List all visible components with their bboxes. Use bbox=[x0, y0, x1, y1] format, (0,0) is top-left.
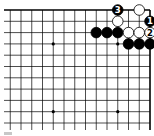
footer-mark bbox=[4, 132, 12, 135]
stone-body bbox=[91, 27, 102, 38]
stone-body bbox=[112, 16, 123, 27]
white-stone bbox=[112, 16, 123, 27]
stone-body bbox=[123, 27, 134, 38]
white-stone bbox=[134, 5, 145, 16]
stone-body bbox=[134, 27, 145, 38]
move-number-label: 3 bbox=[115, 5, 121, 15]
black-stone bbox=[134, 39, 145, 50]
star-point bbox=[116, 42, 119, 45]
move-number-label: 1 bbox=[147, 16, 153, 26]
stone-body bbox=[112, 27, 123, 38]
white-stone bbox=[123, 27, 134, 38]
star-point bbox=[52, 110, 55, 113]
black-stone bbox=[112, 27, 123, 38]
stones: 312 bbox=[91, 5, 154, 50]
black-stone: 3 bbox=[112, 5, 123, 16]
black-stone bbox=[102, 27, 113, 38]
stone-body bbox=[123, 39, 134, 50]
black-stone: 1 bbox=[145, 16, 154, 27]
move-number-label: 2 bbox=[147, 28, 153, 38]
star-point bbox=[52, 42, 55, 45]
stone-body bbox=[134, 5, 145, 16]
white-stone bbox=[134, 27, 145, 38]
stone-body bbox=[145, 39, 154, 50]
stone-body bbox=[102, 27, 113, 38]
go-board: 312 bbox=[0, 0, 154, 136]
black-stone bbox=[123, 39, 134, 50]
star-point bbox=[116, 110, 119, 113]
black-stone bbox=[145, 39, 154, 50]
white-stone: 2 bbox=[145, 27, 154, 38]
black-stone bbox=[91, 27, 102, 38]
stone-body bbox=[134, 39, 145, 50]
